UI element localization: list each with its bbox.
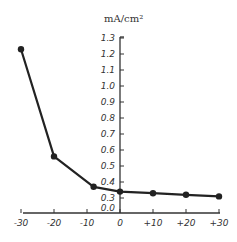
x-tick-label: +20	[177, 218, 196, 228]
y-tick-label: 0.3	[101, 193, 116, 203]
y-tick-label: 0.8	[101, 113, 116, 123]
data-point	[90, 184, 96, 190]
x-tick-label: -10	[80, 218, 95, 228]
line-chart: mA/cm² 1.31.21.11.00.90.80.70.60.50.40.3…	[0, 0, 237, 242]
x-tick-label: -30	[14, 218, 29, 228]
x-tick-label: +10	[144, 218, 163, 228]
y-axis: 1.31.21.11.00.90.80.70.60.50.40.30.0	[101, 33, 124, 213]
x-axis: -30-20-100+10+20+30	[14, 209, 229, 228]
data-point	[216, 193, 222, 199]
data-point	[51, 153, 57, 159]
x-tick-label: -20	[47, 218, 62, 228]
y-tick-label: 1.2	[101, 49, 116, 59]
data-point	[18, 46, 24, 52]
y-tick-label: 0.5	[101, 161, 116, 171]
data-point	[150, 190, 156, 196]
x-tick-label: +30	[210, 218, 229, 228]
data-point	[117, 188, 123, 194]
y-tick-label: 0.0	[101, 203, 116, 213]
y-axis-unit-label: mA/cm²	[104, 13, 143, 24]
y-tick-label: 0.9	[101, 97, 116, 107]
y-tick-label: 1.3	[101, 33, 116, 43]
y-tick-label: 0.4	[101, 177, 116, 187]
x-tick-label: 0	[117, 218, 123, 228]
y-tick-label: 0.6	[101, 145, 116, 155]
y-tick-label: 0.7	[101, 129, 116, 139]
data-point	[183, 192, 189, 198]
y-tick-label: 1.1	[101, 65, 115, 75]
y-tick-label: 1.0	[101, 81, 116, 91]
